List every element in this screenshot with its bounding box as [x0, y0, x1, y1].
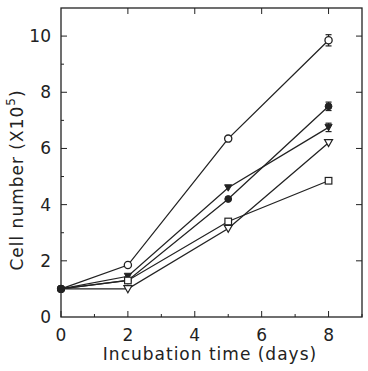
y-tick-label: 2 [40, 251, 51, 271]
series-filled-circle [57, 102, 332, 292]
y-tick-label: 6 [40, 138, 51, 158]
axis-tick-labels: 024680246810 [29, 26, 334, 345]
filled-circle-marker [225, 196, 232, 203]
x-tick-label: 8 [323, 325, 334, 345]
y-axis-label-suffix: ) [7, 89, 27, 97]
data-series [57, 35, 332, 293]
y-tick-label: 0 [40, 307, 51, 327]
open-square-marker [125, 277, 132, 284]
line-chart: 024680246810 Incubation time (days) Cell… [0, 0, 368, 371]
x-tick-label: 4 [189, 325, 200, 345]
x-tick-label: 0 [56, 325, 67, 345]
series-open-triangle-down [57, 140, 332, 293]
open-circle-marker [325, 37, 332, 44]
axis-ticks [61, 8, 362, 317]
plot-border [61, 8, 362, 317]
y-axis-label-text: Cell number (X10 [7, 106, 27, 271]
x-axis-label: Incubation time (days) [103, 344, 317, 364]
series-line [61, 181, 329, 289]
y-axis-label-exponent: 5 [4, 97, 18, 106]
series-open-circle [57, 35, 332, 293]
open-circle-marker [124, 261, 131, 268]
marker-start-point [57, 285, 64, 292]
filled-triangle-marker [325, 124, 332, 130]
svg-text:Cell number (X105): Cell number (X105) [4, 89, 27, 270]
series-line [61, 143, 329, 289]
open-square-marker [325, 177, 332, 184]
series-filled-triangle-down [57, 123, 332, 292]
series-line [61, 40, 329, 289]
open-circle-marker [225, 135, 232, 142]
y-tick-label: 4 [40, 195, 51, 215]
series-line [61, 127, 329, 289]
y-axis-label: Cell number (X105) [4, 89, 27, 270]
plot-frame [61, 8, 362, 317]
open-square-marker [225, 218, 232, 225]
filled-circle-marker [325, 103, 332, 110]
open-triangle-marker [224, 225, 232, 232]
y-tick-label: 8 [40, 82, 51, 102]
x-tick-label: 6 [256, 325, 267, 345]
y-tick-label: 10 [29, 26, 51, 46]
x-tick-label: 2 [122, 325, 133, 345]
